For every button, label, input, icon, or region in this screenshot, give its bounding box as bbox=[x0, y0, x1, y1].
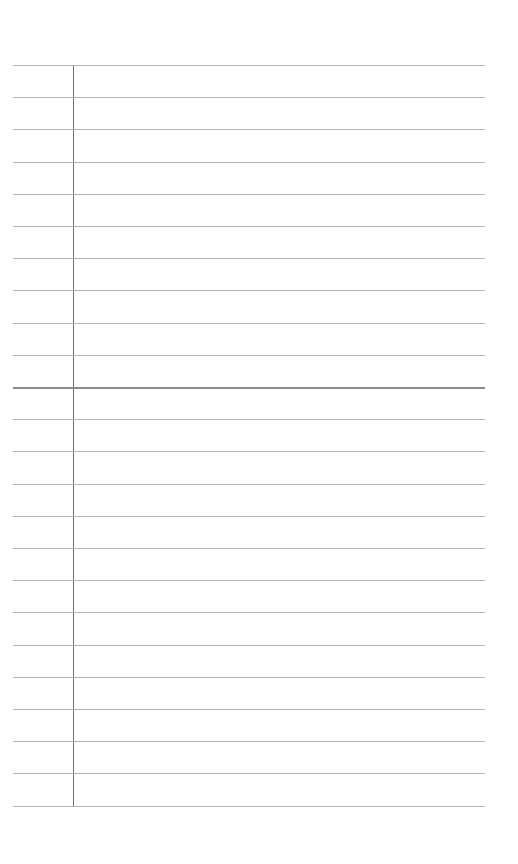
ruled-line bbox=[13, 741, 485, 742]
ruled-line bbox=[13, 773, 485, 774]
ruled-line bbox=[13, 162, 485, 163]
ruled-line bbox=[13, 806, 485, 807]
ruled-line bbox=[13, 97, 485, 98]
ruled-line bbox=[13, 580, 485, 581]
ruled-line bbox=[13, 387, 485, 389]
ruled-line bbox=[13, 677, 485, 678]
ruled-line bbox=[13, 612, 485, 613]
ruled-line bbox=[13, 65, 485, 66]
ruled-line bbox=[13, 516, 485, 517]
ruled-notepad-page bbox=[0, 0, 518, 864]
ruled-line bbox=[13, 548, 485, 549]
margin-line bbox=[73, 65, 74, 807]
ruled-line bbox=[13, 419, 485, 420]
ruled-line bbox=[13, 129, 485, 130]
ruled-line bbox=[13, 226, 485, 227]
ruled-line bbox=[13, 484, 485, 485]
ruled-line bbox=[13, 290, 485, 291]
ruled-line bbox=[13, 355, 485, 356]
ruled-line bbox=[13, 194, 485, 195]
ruled-line bbox=[13, 323, 485, 324]
ruled-line bbox=[13, 709, 485, 710]
ruled-line bbox=[13, 451, 485, 452]
ruled-line bbox=[13, 258, 485, 259]
ruled-line bbox=[13, 645, 485, 646]
